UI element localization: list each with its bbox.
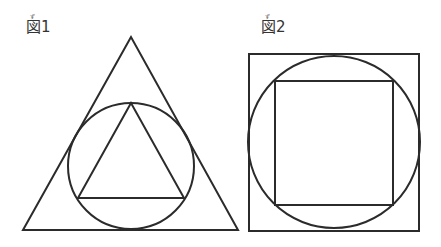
figure-2 xyxy=(248,54,420,231)
figure-1-outer-triangle xyxy=(23,37,238,230)
figure-1 xyxy=(23,37,238,230)
figure-1-inner-triangle xyxy=(78,103,184,198)
figures-canvas xyxy=(0,0,441,247)
figure-2-inner-square xyxy=(275,81,393,205)
figure-1-circle xyxy=(68,103,194,229)
